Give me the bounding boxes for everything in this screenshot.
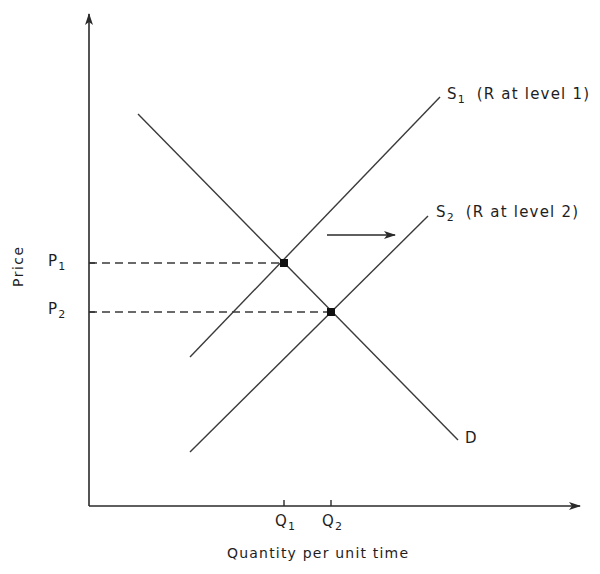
s2-base: S — [436, 203, 447, 221]
equilibrium-point-2 — [327, 308, 335, 316]
x-axis-label: Quantity per unit time — [227, 546, 409, 560]
y-axis-label: Price — [10, 245, 26, 287]
q2-sub: 2 — [335, 520, 342, 533]
supply-demand-diagram: Price P1 P2 Q1 Q2 Quantity per unit time… — [0, 0, 600, 574]
p1-base: P — [48, 252, 58, 270]
p2-label: P2 — [48, 302, 65, 320]
s1-sub: 1 — [458, 93, 465, 106]
s2-note: (R at level 2) — [466, 203, 580, 221]
p2-base: P — [48, 300, 58, 318]
q1-base: Q — [275, 512, 288, 530]
s2-sub: 2 — [447, 211, 454, 224]
supply-curve-s1 — [190, 97, 440, 357]
d-curve-label: D — [465, 431, 478, 446]
p1-label: P1 — [48, 254, 65, 272]
s1-curve-label: S1 (R at level 1) — [447, 87, 590, 105]
equilibrium-point-1 — [280, 259, 288, 267]
supply-curve-s2 — [190, 216, 428, 452]
q1-sub: 1 — [288, 520, 295, 533]
s2-curve-label: S2 (R at level 2) — [436, 205, 579, 223]
q1-label: Q1 — [275, 514, 295, 532]
p1-sub: 1 — [58, 260, 65, 273]
s1-base: S — [447, 85, 458, 103]
demand-curve-d — [138, 114, 458, 440]
s1-note: (R at level 1) — [477, 85, 591, 103]
q2-label: Q2 — [322, 514, 342, 532]
p2-sub: 2 — [58, 308, 65, 321]
q2-base: Q — [322, 512, 335, 530]
